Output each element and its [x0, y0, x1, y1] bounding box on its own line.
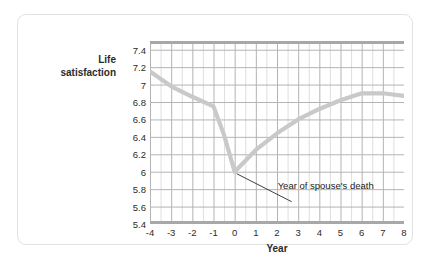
y-axis-tick-label: 6.8: [106, 97, 146, 108]
y-axis-tick-label: 7.4: [106, 44, 146, 55]
annotation-leader-line: [150, 41, 404, 224]
y-axis-tick-label: 7.2: [106, 62, 146, 73]
y-axis-tick-label: 6.4: [106, 131, 146, 142]
x-axis-tick-label: 8: [392, 227, 416, 238]
y-axis-tick-label: 7: [106, 79, 146, 90]
plot-area: [150, 41, 404, 224]
y-axis-tick-label: 6.2: [106, 149, 146, 160]
y-axis-tick-label: 6: [106, 166, 146, 177]
x-axis-title: Year: [150, 243, 404, 254]
x-axis-tick-labels: -4-3-2-1012345678: [150, 227, 404, 241]
y-axis-tick-label: 6.6: [106, 114, 146, 125]
annotation-label: Year of spouse's death: [278, 180, 374, 191]
y-axis-tick-label: 5.6: [106, 201, 146, 212]
y-axis-tick-label: 5.8: [106, 184, 146, 195]
y-axis-tick-labels: 7.47.276.86.66.46.265.85.65.4: [104, 41, 146, 224]
chart-card: Life satisfaction 7.47.276.86.66.46.265.…: [17, 14, 413, 245]
